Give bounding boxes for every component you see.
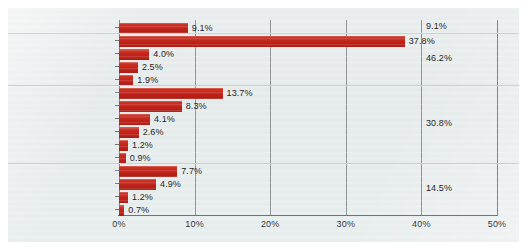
x-axis-tick-label: 30% <box>326 219 366 229</box>
bar-value-label: 4.0% <box>153 47 174 61</box>
bar-value-label: 1.2% <box>132 190 153 204</box>
x-axis-tick-label: 40% <box>401 219 441 229</box>
group-separator-line <box>8 33 519 34</box>
bar-value-label: 4.9% <box>160 177 181 191</box>
bar <box>119 179 156 190</box>
bar-value-label: 37.8% <box>409 34 435 48</box>
gridline-40pct <box>421 20 422 216</box>
x-axis-tick-label: 20% <box>250 219 290 229</box>
gridline-30pct <box>346 20 347 216</box>
bar-value-label: 1.2% <box>132 138 153 152</box>
bar <box>119 205 124 216</box>
bar <box>119 62 138 73</box>
gridline-50pct <box>497 20 498 216</box>
chart-paper-plate: 0%10%20%30%40%50%TEC/OPS/HUM/SOC9.1%OPS/… <box>8 8 519 242</box>
bar <box>119 114 150 125</box>
bar-value-label: 8.3% <box>186 99 207 113</box>
bar <box>119 127 139 138</box>
chart-screenshot: 0%10%20%30%40%50%TEC/OPS/HUM/SOC9.1%OPS/… <box>0 0 527 250</box>
bar-value-label: 4.1% <box>154 112 175 126</box>
bar-chart-plot-area: 0%10%20%30%40%50%TEC/OPS/HUM/SOC9.1%OPS/… <box>8 8 519 242</box>
x-axis-line <box>118 215 497 216</box>
bar <box>119 140 128 151</box>
bar <box>119 88 223 99</box>
x-axis-tick-label: 0% <box>99 219 139 229</box>
bar-value-label: 2.5% <box>142 60 163 74</box>
group-separator-line <box>8 85 519 86</box>
bar-value-label: 13.7% <box>227 86 253 100</box>
bar <box>119 192 128 203</box>
group-total-label: 46.2% <box>426 53 496 63</box>
bar <box>119 36 405 47</box>
group-total-label: 30.8% <box>426 118 496 128</box>
gridline-10pct <box>195 20 196 216</box>
group-total-label: 9.1% <box>426 21 496 31</box>
bar <box>119 166 177 177</box>
group-separator-line <box>8 163 519 164</box>
x-axis-tick-label: 50% <box>477 219 517 229</box>
group-total-label: 14.5% <box>426 183 496 193</box>
bar <box>119 49 149 60</box>
bar-value-label: 0.7% <box>128 203 149 217</box>
gridline-20pct <box>270 20 271 216</box>
bar <box>119 101 182 112</box>
bar-value-label: 2.6% <box>143 125 164 139</box>
x-axis-tick-label: 10% <box>175 219 215 229</box>
bar-value-label: 7.7% <box>181 164 202 178</box>
